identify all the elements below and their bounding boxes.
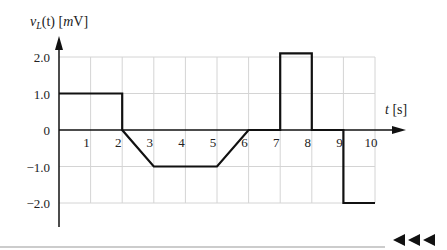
y-axis-label: vL(t) [mV]: [30, 14, 88, 31]
x-tick-label: 7: [273, 135, 280, 150]
x-tick-label: 3: [147, 135, 154, 150]
x-tick-label: 10: [365, 135, 378, 150]
x-tick-label: 1: [83, 135, 90, 150]
x-axis-label: t [s]: [385, 102, 407, 117]
x-tick-label: 9: [336, 135, 343, 150]
back-nav-arrows-icon[interactable]: [393, 234, 435, 246]
y-tick-label: 2.0: [34, 50, 50, 65]
x-tick-label: 8: [305, 135, 312, 150]
y-tick-labels: 2.01.00−1.0−2.0: [26, 50, 50, 211]
x-tick-label: 5: [210, 135, 217, 150]
x-axis-arrow-icon: [392, 126, 406, 134]
axes: [55, 36, 406, 227]
y-tick-label: 1.0: [34, 87, 50, 102]
y-tick-label: −1.0: [26, 160, 50, 175]
chart: 2.01.00−1.0−2.0 12345678910 vL(t) [mV] t…: [0, 0, 447, 250]
y-tick-label: −2.0: [26, 196, 50, 211]
y-axis-arrow-icon: [55, 36, 63, 50]
x-tick-label: 2: [115, 135, 122, 150]
y-tick-label: 0: [44, 123, 51, 138]
x-tick-label: 4: [178, 135, 185, 150]
